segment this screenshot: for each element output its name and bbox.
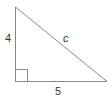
hypotenuse bbox=[16, 7, 108, 82]
hypotenuse-label: c bbox=[63, 33, 69, 44]
vertical-leg-label: 4 bbox=[5, 33, 11, 44]
right-angle-marker bbox=[16, 70, 28, 82]
horizontal-leg-label: 5 bbox=[55, 86, 61, 97]
